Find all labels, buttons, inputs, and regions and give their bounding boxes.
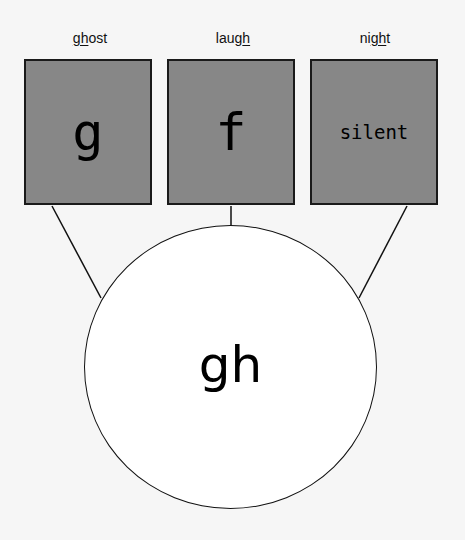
word-night: night xyxy=(310,30,440,46)
sound-label: f xyxy=(215,102,246,162)
word-ghost: ghost xyxy=(25,30,155,46)
sound-box-g: g xyxy=(24,59,152,205)
sound-label: g xyxy=(72,102,103,162)
center-label: gh xyxy=(199,336,262,394)
sound-box-f: f xyxy=(167,59,295,205)
sound-box-silent: silent xyxy=(310,59,438,205)
sound-label: silent xyxy=(340,121,409,143)
center-node: gh xyxy=(84,225,377,509)
word-laugh: laugh xyxy=(168,30,298,46)
